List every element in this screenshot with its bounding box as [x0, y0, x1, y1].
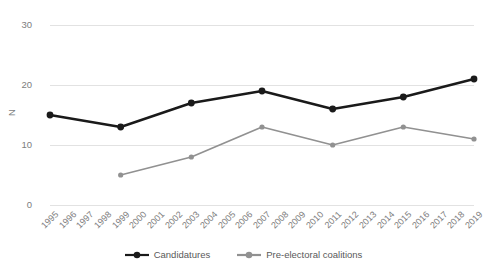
data-point-marker: [330, 142, 335, 147]
data-point-marker: [329, 106, 336, 113]
series-line: [121, 127, 474, 175]
data-point-marker: [117, 124, 124, 131]
legend-entry[interactable]: Candidatures: [124, 250, 211, 260]
data-point-marker: [471, 76, 478, 83]
legend-label: Pre-electoral coalitions: [266, 250, 362, 260]
legend-label: Candidatures: [154, 250, 211, 260]
series-line: [50, 79, 474, 127]
data-point-marker: [189, 154, 194, 159]
legend-marker-icon: [236, 250, 262, 260]
data-point-marker: [259, 88, 266, 95]
data-point-marker: [118, 172, 123, 177]
data-point-marker: [47, 112, 54, 119]
legend-entry[interactable]: Pre-electoral coalitions: [236, 250, 362, 260]
data-point-marker: [401, 124, 406, 129]
legend-marker-icon: [124, 250, 150, 260]
line-chart: N 0102030 199519961997199819992000200120…: [0, 0, 486, 273]
chart-legend: CandidaturesPre-electoral coalitions: [0, 250, 486, 260]
data-point-marker: [188, 100, 195, 107]
data-point-marker: [471, 136, 476, 141]
data-point-marker: [400, 94, 407, 101]
data-point-marker: [259, 124, 264, 129]
